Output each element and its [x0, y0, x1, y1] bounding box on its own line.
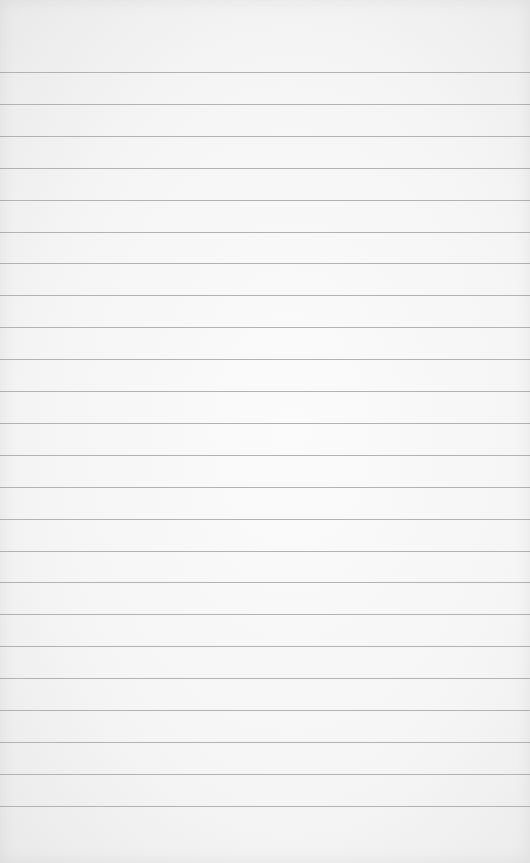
- ruled-line: [0, 295, 530, 296]
- ruled-line: [0, 582, 530, 583]
- ruled-line: [0, 327, 530, 328]
- ruled-line: [0, 136, 530, 137]
- ruled-line: [0, 646, 530, 647]
- ruled-line: [0, 774, 530, 775]
- ruled-line: [0, 519, 530, 520]
- ruled-line: [0, 487, 530, 488]
- ruled-line: [0, 200, 530, 201]
- ruled-line: [0, 614, 530, 615]
- ruled-line: [0, 551, 530, 552]
- ruled-line: [0, 423, 530, 424]
- ruled-line: [0, 104, 530, 105]
- ruled-line: [0, 678, 530, 679]
- ruled-line: [0, 806, 530, 807]
- ruled-line: [0, 391, 530, 392]
- ruled-line: [0, 72, 530, 73]
- lined-paper-sheet: [0, 0, 530, 863]
- ruled-line: [0, 263, 530, 264]
- ruled-line: [0, 455, 530, 456]
- ruled-line: [0, 710, 530, 711]
- ruled-line: [0, 168, 530, 169]
- ruled-line: [0, 359, 530, 360]
- ruled-line: [0, 232, 530, 233]
- ruled-line: [0, 742, 530, 743]
